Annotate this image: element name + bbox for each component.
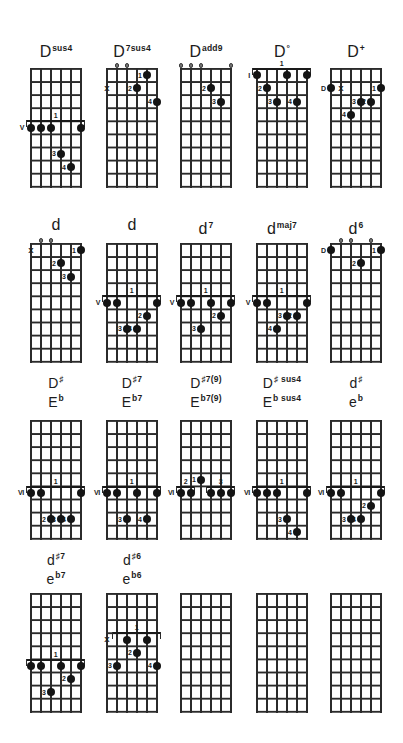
finger-dot	[113, 299, 121, 307]
finger-number: 3	[337, 515, 346, 524]
finger-number: 1	[133, 71, 142, 80]
finger-dot	[377, 84, 385, 92]
chord-quality: b	[58, 393, 63, 403]
finger-dot	[133, 489, 141, 497]
barre-finger-label: 1	[51, 112, 61, 120]
finger-dot	[303, 71, 311, 79]
finger-number: 3	[47, 515, 56, 524]
finger-dot	[123, 515, 131, 523]
barre-finger-label: 1	[277, 287, 287, 295]
finger-dot	[67, 273, 75, 281]
barre-line	[176, 295, 235, 297]
muted-string-icon: X	[102, 635, 112, 644]
chord-quality: +	[360, 43, 365, 53]
chord-name-primary: d6	[300, 216, 403, 238]
finger-number: 2	[47, 259, 56, 268]
chord-root: E	[263, 394, 272, 410]
finger-dot	[263, 489, 271, 497]
finger-dot	[77, 489, 85, 497]
chord-quality: ♯	[358, 374, 362, 384]
finger-dot	[143, 312, 151, 320]
finger-number: 4	[337, 110, 346, 119]
chord-name: D+	[300, 39, 403, 61]
barre-finger-label: 1	[351, 478, 361, 486]
finger-dot	[133, 649, 141, 657]
barre-line	[102, 295, 161, 297]
barre-line	[252, 295, 311, 297]
finger-dot	[77, 124, 85, 132]
chord-root: d	[349, 375, 357, 391]
finger-number: 4	[143, 97, 152, 106]
fret-position-label: VI	[310, 488, 324, 497]
finger-number: 4	[283, 97, 292, 106]
chord-root: d	[47, 552, 55, 568]
finger-number: D	[317, 84, 326, 93]
finger-dot	[197, 476, 205, 484]
finger-dot	[217, 98, 225, 106]
open-string-marker	[39, 238, 44, 243]
fret-position-label: I	[236, 71, 250, 80]
chord-name-primary: D+	[300, 39, 403, 61]
open-string-marker	[49, 238, 54, 243]
finger-dot	[273, 489, 281, 497]
chord-quality: ♯7	[133, 374, 142, 384]
finger-number: D	[317, 246, 326, 255]
chord-root: D	[189, 43, 201, 60]
chord-root: D	[48, 375, 58, 391]
chord-root: D	[263, 375, 273, 391]
finger-dot	[27, 489, 35, 497]
chord-root: E	[48, 394, 57, 410]
chord-name-enharmonic: eb6	[76, 568, 188, 587]
open-string-marker	[189, 63, 194, 68]
finger-number: 2	[207, 311, 216, 320]
finger-dot	[293, 98, 301, 106]
chord-quality: 6	[358, 220, 363, 230]
chord-quality: b6	[131, 570, 141, 580]
chord-quality: b7	[55, 570, 65, 580]
finger-number: 3	[47, 149, 56, 158]
finger-dot	[227, 489, 235, 497]
finger-number: 4	[263, 324, 272, 333]
chord-root: E	[190, 394, 199, 410]
barre-line	[326, 486, 385, 488]
finger-number: 4	[123, 324, 132, 333]
chord-quality: b7(9)	[201, 393, 222, 403]
barre-line	[26, 486, 85, 488]
muted-string-icon: X	[26, 246, 36, 255]
finger-number: 4	[347, 515, 356, 524]
chord-root: D	[122, 375, 132, 391]
barre-finger-label: 1	[277, 60, 287, 68]
muted-string-icon: X	[336, 84, 346, 93]
finger-dot	[207, 299, 215, 307]
finger-number: 3	[263, 97, 272, 106]
fret-position-label: V	[86, 298, 100, 307]
barre-finger-label: 1	[277, 478, 287, 486]
finger-number: 3	[113, 515, 122, 524]
chord-chart-page: Dsus41V34D7sus4X124Dadd923D°1I234D+XD132…	[0, 0, 403, 743]
finger-number: 2	[133, 311, 142, 320]
chord-name: d♯eb	[300, 372, 403, 410]
chord-quality: ♯	[59, 374, 63, 384]
barre-line	[26, 120, 85, 122]
fret-position-label: V	[160, 298, 174, 307]
finger-number: 4	[143, 661, 152, 670]
finger-number: 4	[57, 515, 66, 524]
finger-dot	[217, 489, 225, 497]
chord-quality: 7	[208, 220, 213, 230]
finger-dot	[143, 636, 151, 644]
finger-dot	[67, 515, 75, 523]
finger-dot	[197, 325, 205, 333]
finger-dot	[187, 299, 195, 307]
chord-root: E	[122, 394, 131, 410]
fretboard-grid	[256, 593, 308, 713]
chord-root: D	[274, 43, 286, 60]
finger-number: 2	[357, 97, 366, 106]
open-string-marker	[179, 63, 184, 68]
finger-dot	[263, 299, 271, 307]
finger-dot	[337, 489, 345, 497]
open-string-marker	[339, 238, 344, 243]
finger-dot	[303, 299, 311, 307]
finger-dot	[103, 489, 111, 497]
muted-string-icon: X	[102, 84, 112, 93]
fretboard-grid	[330, 593, 382, 713]
